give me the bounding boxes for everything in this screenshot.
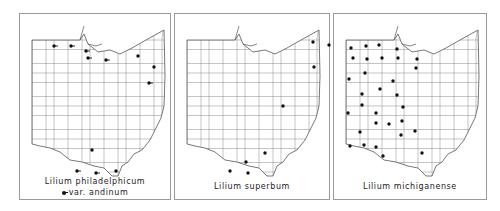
map-panel-philadelphicum: Lilium philadelphicum var. andinum [19,13,171,200]
species-title: Lilium philadelphicum [20,177,170,186]
ohio-county-map [20,14,172,201]
tailed-dot-icon [62,191,66,195]
species-title: Lilium superbum [175,182,329,191]
species-title: Lilium michiganense [334,182,486,191]
ohio-county-map [175,14,331,201]
variety-legend: var. andinum [20,188,170,197]
map-panel-superbum: Lilium superbum [174,13,330,200]
map-panel-michiganense: Lilium michiganense [333,13,487,200]
ohio-county-map [334,14,488,201]
